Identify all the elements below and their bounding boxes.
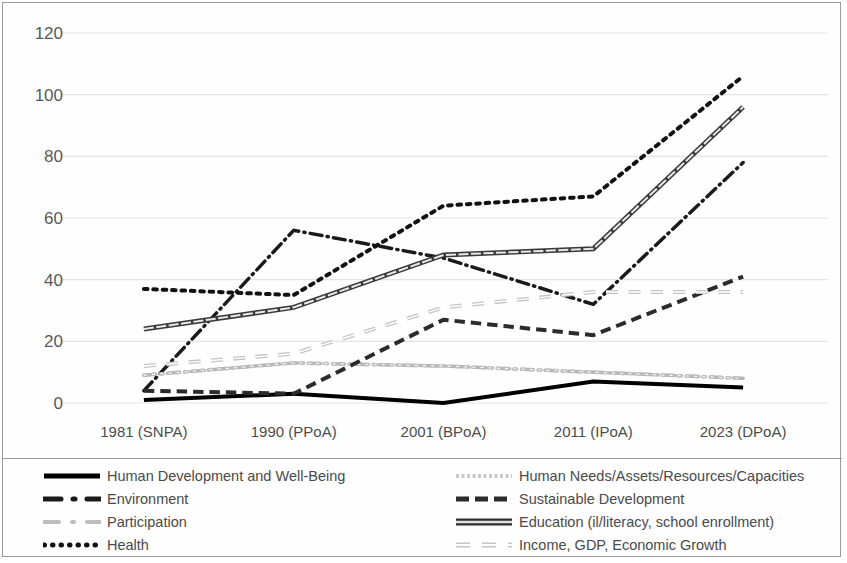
series-line <box>144 292 743 366</box>
legend-marker <box>43 538 101 552</box>
legend-swatch-icon <box>455 538 513 552</box>
legend-item[interactable]: Human Development and Well-Being <box>43 465 345 487</box>
y-axis-tick-label: 40 <box>17 271 63 288</box>
legend-label: Environment <box>107 492 188 507</box>
legend-swatch-icon <box>455 469 513 483</box>
legend-swatch-icon <box>43 515 101 529</box>
legend-swatch-icon <box>43 469 101 483</box>
series-line <box>144 363 743 378</box>
y-axis-tick-label: 120 <box>17 25 63 42</box>
legend-column-left: Human Development and Well-BeingEnvironm… <box>43 465 345 557</box>
series-group <box>144 76 743 403</box>
series-line <box>144 163 743 391</box>
legend-swatch-icon <box>455 492 513 506</box>
legend-label: Education (il/literacy, school enrollmen… <box>519 515 774 530</box>
legend-label: Human Needs/Assets/Resources/Capacities <box>519 469 804 484</box>
legend-label: Participation <box>107 515 187 530</box>
series-line-inner <box>144 292 743 366</box>
legend-label: Health <box>107 538 149 553</box>
gridlines <box>61 33 828 403</box>
plot-area: 020406080100120 1981 (SNPA)1990 (PPoA)20… <box>3 3 842 458</box>
y-axis-tick-label: 20 <box>17 333 63 350</box>
legend-marker <box>455 538 513 552</box>
x-axis: 1981 (SNPA)1990 (PPoA)2001 (BPoA)2011 (I… <box>3 423 842 453</box>
y-axis-tick-label: 60 <box>17 210 63 227</box>
y-axis-tick-label: 80 <box>17 148 63 165</box>
legend-swatch-icon <box>43 538 101 552</box>
series-line <box>144 76 743 295</box>
legend-item[interactable]: Human Needs/Assets/Resources/Capacities <box>455 465 804 487</box>
legend-marker <box>43 469 101 483</box>
x-axis-tick-label: 2023 (DPoA) <box>700 423 787 440</box>
legend-column-right: Human Needs/Assets/Resources/CapacitiesS… <box>455 465 804 557</box>
legend-marker <box>43 515 101 529</box>
y-axis: 020406080100120 <box>11 3 63 458</box>
legend-item[interactable]: Education (il/literacy, school enrollmen… <box>455 511 804 533</box>
legend-swatch-icon <box>43 492 101 506</box>
legend-label: Income, GDP, Economic Growth <box>519 538 727 553</box>
legend-label: Sustainable Development <box>519 492 684 507</box>
legend-swatch-icon <box>455 515 513 529</box>
legend-marker <box>455 492 513 506</box>
chart-frame: 020406080100120 1981 (SNPA)1990 (PPoA)20… <box>2 2 841 557</box>
x-axis-tick-label: 1990 (PPoA) <box>251 423 337 440</box>
y-axis-tick-label: 0 <box>17 395 63 412</box>
legend-label: Human Development and Well-Being <box>107 469 345 484</box>
legend-item[interactable]: Income, GDP, Economic Growth <box>455 534 804 556</box>
legend-item[interactable]: Environment <box>43 488 345 510</box>
legend-marker <box>455 469 513 483</box>
x-axis-tick-label: 2011 (IPoA) <box>554 423 633 440</box>
y-axis-tick-label: 100 <box>17 86 63 103</box>
x-axis-tick-label: 2001 (BPoA) <box>401 423 487 440</box>
x-axis-tick-label: 1981 (SNPA) <box>100 423 187 440</box>
legend-marker <box>455 515 513 529</box>
legend-item[interactable]: Participation <box>43 511 345 533</box>
chart-legend: Human Development and Well-BeingEnvironm… <box>3 458 842 556</box>
legend-item[interactable]: Health <box>43 534 345 556</box>
legend-item[interactable]: Sustainable Development <box>455 488 804 510</box>
line-chart-svg <box>3 3 842 458</box>
legend-marker <box>43 492 101 506</box>
